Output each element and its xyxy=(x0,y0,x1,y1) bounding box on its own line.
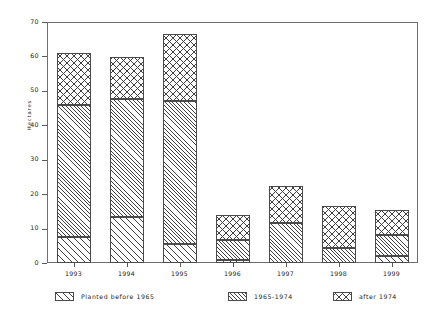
y-tick-mark xyxy=(42,229,47,230)
y-tick-mark xyxy=(42,22,47,23)
bar-stack xyxy=(269,22,303,263)
bar-segment xyxy=(375,256,409,263)
stacked-bar-chart: Hectares 010203040506070 199319941995199… xyxy=(0,0,428,326)
bar-stack xyxy=(216,22,250,263)
y-tick-label: 60 xyxy=(30,52,39,59)
bar-segment xyxy=(269,186,303,224)
legend-item: Planted before 1965 xyxy=(55,292,154,301)
y-tick-mark xyxy=(42,125,47,126)
x-tick-label: 1999 xyxy=(370,270,414,277)
bar-segment xyxy=(216,260,250,263)
y-tick-label: 50 xyxy=(30,86,39,93)
y-tick-mark xyxy=(42,160,47,161)
bar-stack xyxy=(57,22,91,263)
y-tick-label: 10 xyxy=(30,224,39,231)
bar-segment xyxy=(375,235,409,256)
bar-stack xyxy=(163,22,197,263)
legend-label: 1965-1974 xyxy=(254,293,293,300)
bar-segment xyxy=(216,240,250,260)
y-tick-label: 40 xyxy=(30,121,39,128)
bar-segment xyxy=(110,99,144,216)
legend-label: after 1974 xyxy=(359,293,397,300)
y-tick-mark xyxy=(42,56,47,57)
legend-swatch xyxy=(55,292,74,301)
bar-segment xyxy=(322,248,356,263)
chart-legend: Planted before 19651965-1974after 1974 xyxy=(0,292,428,312)
bar-segment xyxy=(375,210,409,236)
x-tick-mark xyxy=(180,263,181,267)
bar-stack xyxy=(322,22,356,263)
legend-label: Planted before 1965 xyxy=(81,293,154,300)
x-tick-label: 1996 xyxy=(211,270,255,277)
bar-segment xyxy=(216,215,250,240)
legend-swatch xyxy=(228,292,247,301)
x-tick-label: 1994 xyxy=(105,270,149,277)
bar-stack xyxy=(375,22,409,263)
bar-segment xyxy=(163,34,197,101)
x-tick-label: 1995 xyxy=(158,270,202,277)
bar-segment xyxy=(269,223,303,263)
y-tick-mark xyxy=(42,91,47,92)
legend-item: after 1974 xyxy=(333,292,397,301)
y-tick-mark xyxy=(42,194,47,195)
x-tick-mark xyxy=(233,263,234,267)
bar-segment xyxy=(163,101,197,244)
x-tick-label: 1993 xyxy=(52,270,96,277)
y-tick-label: 70 xyxy=(30,18,39,25)
bar-segment xyxy=(57,105,91,238)
legend-item: 1965-1974 xyxy=(228,292,293,301)
x-tick-mark xyxy=(286,263,287,267)
legend-swatch xyxy=(333,292,352,301)
bar-segment xyxy=(57,237,91,263)
x-tick-label: 1997 xyxy=(264,270,308,277)
y-tick-label: 20 xyxy=(30,190,39,197)
y-tick-mark xyxy=(42,263,47,264)
y-tick-label: 0 xyxy=(35,259,39,266)
x-tick-mark xyxy=(74,263,75,267)
bar-segment xyxy=(110,57,144,99)
bar-segment xyxy=(322,206,356,247)
x-tick-mark xyxy=(392,263,393,267)
bar-segment xyxy=(163,244,197,263)
bar-segment xyxy=(57,53,91,105)
y-tick-label: 30 xyxy=(30,155,39,162)
bar-segment xyxy=(110,217,144,263)
x-tick-label: 1998 xyxy=(317,270,361,277)
x-tick-mark xyxy=(339,263,340,267)
x-tick-mark xyxy=(127,263,128,267)
bar-stack xyxy=(110,22,144,263)
